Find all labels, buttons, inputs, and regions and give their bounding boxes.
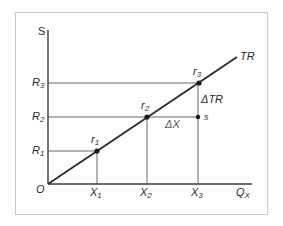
- point-label-r1: r1: [91, 133, 99, 147]
- tr-line-label: TR: [240, 50, 255, 62]
- delta-x-label: ΔX: [164, 118, 180, 130]
- y-axis-label: S: [38, 25, 45, 37]
- point-r2: [144, 114, 149, 119]
- delta-tr-label: ΔTR: [200, 93, 223, 105]
- point-r3: [196, 80, 201, 85]
- point-label-s: s: [204, 112, 209, 122]
- point-r1: [94, 148, 99, 153]
- tr-line: [48, 57, 237, 184]
- point-label-r2: r2: [141, 99, 150, 113]
- point-s: [196, 115, 200, 119]
- point-label-r3: r3: [193, 65, 202, 79]
- x-tick-x3: X3: [190, 186, 203, 200]
- y-tick-r2: R2: [32, 110, 45, 124]
- y-tick-r1: R1: [32, 144, 44, 158]
- x-tick-x1: X1: [89, 186, 102, 200]
- y-tick-r3: R3: [32, 76, 45, 90]
- origin-label: O: [36, 183, 45, 195]
- x-tick-x2: X2: [139, 186, 152, 200]
- total-revenue-diagram: S O QX R1 R2 R3 X1 X2 X3 r1 r2 r3 s TR Δ…: [0, 0, 283, 226]
- x-axis-label: QX: [236, 186, 251, 200]
